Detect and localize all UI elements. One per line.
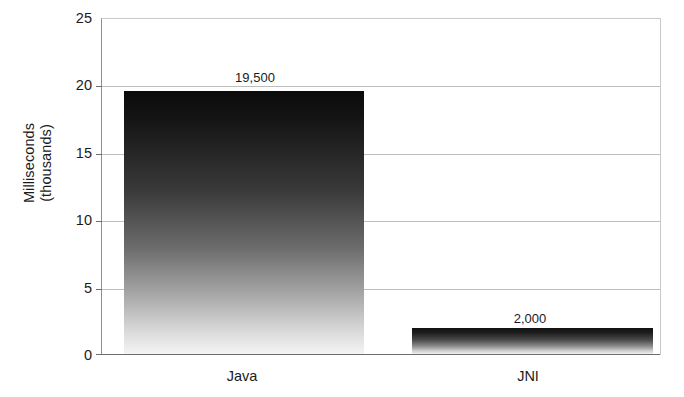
bar-chart: Milliseconds (thousands) 25 20 15 10 5 0… <box>0 0 684 397</box>
y-tick-label-20: 20 <box>58 77 92 93</box>
gridline-20 <box>102 86 660 87</box>
y-tick-label-0: 0 <box>58 347 92 363</box>
bar-value-label-java: 19,500 <box>235 70 275 85</box>
y-tick-label-10: 10 <box>58 212 92 228</box>
plot-area <box>101 18 661 355</box>
y-tick-label-15: 15 <box>58 145 92 161</box>
tick-mark-0 <box>96 354 102 355</box>
y-axis-title-line-1: Milliseconds <box>21 123 38 203</box>
tick-mark-10 <box>96 221 102 222</box>
y-tick-label-5: 5 <box>58 280 92 296</box>
tick-mark-5 <box>96 289 102 290</box>
bar-jni <box>412 328 653 354</box>
x-tick-label-java: Java <box>227 368 258 384</box>
tick-mark-15 <box>96 154 102 155</box>
x-tick-label-jni: JNI <box>517 368 539 384</box>
tick-mark-20 <box>96 86 102 87</box>
x-axis-line <box>102 354 660 355</box>
y-tick-label-25: 25 <box>58 10 92 26</box>
bar-value-label-jni: 2,000 <box>514 311 547 326</box>
bar-java <box>124 91 364 354</box>
y-axis-tick-labels: 25 20 15 10 5 0 <box>48 0 92 397</box>
